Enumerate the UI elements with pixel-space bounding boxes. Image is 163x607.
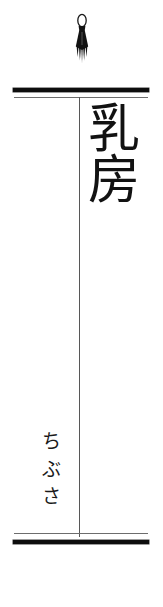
top-rail-thin-line — [14, 97, 148, 98]
reading-char-3: さ — [38, 483, 64, 511]
reading-char-1: ち — [38, 428, 64, 456]
headword-char-1: 乳 — [88, 104, 142, 155]
bottom-rail-thin-line — [14, 533, 148, 534]
bottom-rail-thick-bar — [13, 540, 149, 544]
reading-char-2: ぶ — [38, 456, 64, 484]
scroll-page: 乳 房 ち ぶ さ — [0, 0, 163, 607]
bottom-rail — [13, 533, 149, 545]
vertical-divider — [79, 97, 80, 537]
tassel-icon — [70, 13, 94, 65]
reading-column: ち ぶ さ — [38, 428, 64, 511]
headword-char-2: 房 — [88, 155, 142, 206]
headword-column: 乳 房 — [88, 104, 142, 206]
top-rail-thick-bar — [13, 88, 149, 92]
